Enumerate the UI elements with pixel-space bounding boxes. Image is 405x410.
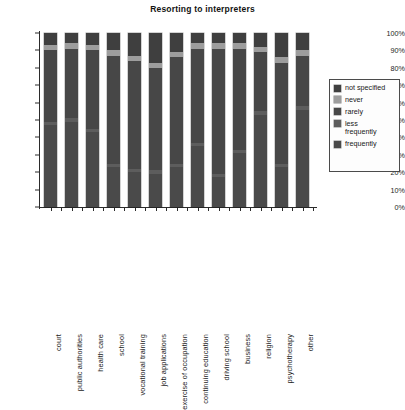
y-axis-tick-mark — [35, 207, 39, 208]
legend-label: rarely — [345, 108, 363, 116]
y-axis-tick-mark — [35, 33, 39, 34]
bar-segment — [191, 33, 204, 43]
bar-segment — [128, 33, 141, 56]
legend-label: less frequently — [345, 120, 377, 137]
y-axis-tick-mark — [35, 102, 39, 103]
bar-segment — [44, 125, 57, 207]
bar-column — [191, 33, 204, 207]
bar-segment — [149, 33, 162, 63]
x-axis-tick-mark — [219, 207, 220, 211]
bar-segment — [212, 33, 225, 43]
x-axis-category-label: public authorities — [75, 334, 84, 391]
bar-segment — [65, 33, 78, 43]
legend-label: not specified — [345, 84, 385, 92]
legend-item: less frequently — [334, 120, 396, 137]
x-axis-tick-mark — [303, 207, 304, 211]
bar-segment — [107, 33, 120, 50]
bar-column — [170, 33, 183, 207]
x-axis-category-label: health care — [96, 334, 105, 372]
bar-segment — [254, 115, 267, 207]
x-axis-tick-mark — [261, 207, 262, 211]
bar-segment — [212, 177, 225, 207]
bar-segment — [296, 110, 309, 207]
y-axis-tick-mark — [35, 189, 39, 190]
x-axis-tick-mark — [145, 207, 146, 211]
y-axis-tick-mark — [35, 67, 39, 68]
x-axis-tick-mark — [177, 207, 178, 211]
x-axis-tick-mark — [198, 207, 199, 211]
legend-item: frequently — [334, 140, 396, 148]
plot-area — [40, 33, 317, 207]
x-axis-tick-mark — [313, 207, 314, 211]
chart-title: Resorting to interpreters — [0, 4, 405, 14]
x-axis-tick-mark — [103, 207, 104, 211]
legend-label: never — [345, 96, 363, 104]
bar-column — [275, 33, 288, 207]
bar-column — [233, 33, 246, 207]
x-axis-category-label: court — [54, 334, 63, 351]
y-axis-tick-mark — [35, 120, 39, 121]
bar-column — [107, 33, 120, 207]
bar-segment — [191, 146, 204, 207]
bar-segment — [65, 49, 78, 119]
y-axis-tick-label: 0% — [371, 203, 405, 212]
bar-segment — [149, 174, 162, 207]
x-axis-tick-mark — [271, 207, 272, 211]
chart-legend: not specifiedneverrarelyless frequentlyf… — [329, 79, 400, 172]
legend-label: frequently — [345, 140, 377, 148]
x-axis-tick-mark — [72, 207, 73, 211]
legend-swatch — [334, 108, 341, 115]
bar-segment — [254, 52, 267, 111]
bar-segment — [170, 57, 183, 163]
x-axis-tick-mark — [187, 207, 188, 211]
x-axis-category-label: exercise of occupation — [180, 334, 189, 410]
y-axis-tick-mark — [35, 154, 39, 155]
bar-column — [86, 33, 99, 207]
bar-segment — [128, 172, 141, 207]
y-axis-tick-label: 90% — [371, 46, 405, 55]
x-axis-category-label: business — [243, 334, 252, 364]
legend-swatch — [334, 120, 341, 127]
bar-segment — [233, 33, 246, 43]
bar-segment — [170, 167, 183, 207]
bar-segment — [107, 167, 120, 207]
x-axis-tick-mark — [93, 207, 94, 211]
bar-segment — [86, 132, 99, 207]
y-axis-tick-label: 100% — [371, 29, 405, 38]
legend-swatch — [334, 96, 341, 103]
x-axis-category-label: vocational training — [138, 334, 147, 395]
x-axis-tick-mark — [292, 207, 293, 211]
legend-item: never — [334, 96, 396, 104]
bar-segment — [296, 56, 309, 106]
bar-segment — [233, 153, 246, 207]
y-axis-tick-mark — [35, 50, 39, 51]
bar-segment — [44, 33, 57, 45]
bar-segment — [275, 33, 288, 57]
bar-segment — [86, 33, 99, 45]
bar-segment — [233, 49, 246, 150]
y-axis-tick-mark — [35, 85, 39, 86]
bar-column — [149, 33, 162, 207]
x-axis-tick-mark — [124, 207, 125, 211]
bar-column — [65, 33, 78, 207]
bar-segment — [275, 167, 288, 207]
y-axis-tick-label: 80% — [371, 63, 405, 72]
x-axis-category-label: psychotherapy — [285, 334, 294, 383]
x-axis-tick-mark — [250, 207, 251, 211]
bar-segment — [275, 63, 288, 164]
x-axis-tick-mark — [61, 207, 62, 211]
x-axis-tick-mark — [208, 207, 209, 211]
bar-segment — [212, 49, 225, 174]
bar-segment — [86, 50, 99, 128]
legend-item: not specified — [334, 84, 396, 92]
bar-group — [40, 33, 317, 207]
x-axis-category-label: school — [117, 334, 126, 356]
bar-column — [296, 33, 309, 207]
bar-segment — [254, 33, 267, 47]
bar-segment — [170, 33, 183, 52]
x-axis-category-label: job applications — [159, 334, 168, 387]
x-axis-category-label: driving school — [222, 334, 231, 381]
x-axis-tick-mark — [229, 207, 230, 211]
bar-segment — [296, 33, 309, 50]
x-axis-tick-mark — [166, 207, 167, 211]
